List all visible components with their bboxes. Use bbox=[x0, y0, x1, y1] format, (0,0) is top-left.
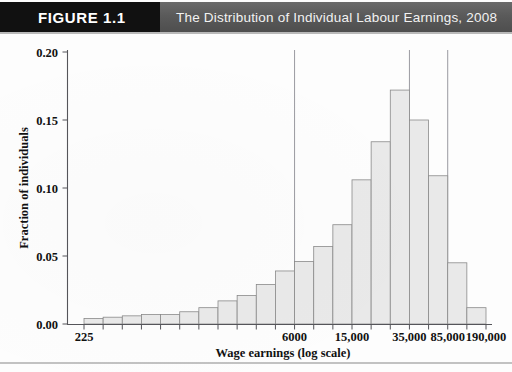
x-tick-group bbox=[84, 325, 486, 330]
x-tick-label: 85,000 bbox=[431, 330, 465, 344]
y-axis-title: Fraction of individuals bbox=[17, 127, 31, 249]
y-tick-group bbox=[63, 52, 68, 324]
histogram-bar bbox=[141, 314, 160, 324]
figure-container: FIGURE 1.1 The Distribution of Individua… bbox=[0, 0, 512, 372]
histogram-bar bbox=[467, 308, 486, 324]
histogram-bar bbox=[352, 180, 371, 324]
chart-area: 0.000.050.100.150.20 225600015,00035,000… bbox=[0, 0, 512, 372]
bars-group bbox=[84, 90, 486, 324]
histogram-bar bbox=[180, 312, 199, 324]
figure-number-badge: FIGURE 1.1 bbox=[0, 2, 160, 32]
y-tick-label: 0.10 bbox=[36, 182, 58, 196]
histogram-bar bbox=[161, 314, 180, 324]
histogram-bar bbox=[199, 308, 218, 324]
histogram-bar bbox=[103, 317, 122, 324]
figure-title-bar: The Distribution of Individual Labour Ea… bbox=[160, 2, 512, 32]
y-tick-label: 0.20 bbox=[36, 46, 58, 60]
histogram-bar bbox=[390, 90, 409, 324]
histogram-bar bbox=[84, 319, 103, 324]
figure-number-label: FIGURE 1.1 bbox=[38, 9, 126, 26]
figure-footer-divider bbox=[0, 362, 512, 364]
y-tick-label: 0.00 bbox=[36, 318, 58, 332]
x-tick-label: 190,000 bbox=[466, 330, 507, 344]
y-tick-label: 0.05 bbox=[36, 250, 58, 264]
histogram-bar bbox=[429, 176, 448, 324]
histogram-bar bbox=[333, 225, 352, 324]
x-axis-title: Wage earnings (log scale) bbox=[215, 346, 350, 360]
y-tick-labels: 0.000.050.100.150.20 bbox=[36, 46, 58, 332]
histogram-bar bbox=[275, 271, 294, 324]
histogram-bar bbox=[237, 295, 256, 324]
histogram-bar bbox=[314, 246, 333, 324]
x-tick-label: 6000 bbox=[282, 330, 307, 344]
y-tick-label: 0.15 bbox=[36, 114, 58, 128]
x-tick-label: 35,000 bbox=[392, 330, 426, 344]
histogram-svg: 0.000.050.100.150.20 225600015,00035,000… bbox=[0, 0, 512, 372]
histogram-bar bbox=[218, 301, 237, 324]
histogram-bar bbox=[409, 120, 428, 324]
histogram-bar bbox=[295, 261, 314, 324]
histogram-bar bbox=[448, 263, 467, 324]
x-tick-label: 225 bbox=[75, 330, 94, 344]
histogram-bar bbox=[256, 285, 275, 324]
figure-header: FIGURE 1.1 The Distribution of Individua… bbox=[0, 2, 512, 32]
x-tick-label: 15,000 bbox=[335, 330, 369, 344]
x-tick-labels: 225600015,00035,00085,000190,000 bbox=[75, 330, 507, 344]
histogram-bar bbox=[371, 142, 390, 324]
histogram-bar bbox=[122, 316, 141, 324]
figure-title-text: The Distribution of Individual Labour Ea… bbox=[176, 10, 497, 25]
